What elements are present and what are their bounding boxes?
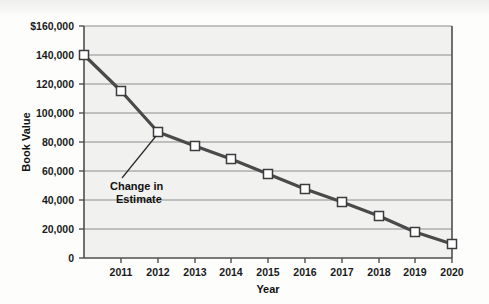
x-tick-label-2019: 2019 xyxy=(403,266,427,278)
x-tick-label-2015: 2015 xyxy=(256,266,280,278)
annotation-change-in-estimate-line2: Estimate xyxy=(116,193,162,205)
y-tick-label-120000: 120,000 xyxy=(36,78,74,90)
x-tick-label-2018: 2018 xyxy=(367,266,391,278)
data-point-2015 xyxy=(264,170,273,179)
data-point-2017 xyxy=(338,198,347,207)
data-point-2012 xyxy=(154,128,163,137)
x-tick-label-2014: 2014 xyxy=(219,266,243,278)
chart-figure: Change in Estimate $160,000 140,000 120,… xyxy=(0,0,489,304)
annotation-change-in-estimate-line1: Change in xyxy=(110,180,163,192)
x-tick-label-2017: 2017 xyxy=(330,266,354,278)
data-point-2010 xyxy=(80,51,89,60)
y-tick-label-40000: 40,000 xyxy=(42,194,74,206)
y-tick-label-100000: 100,000 xyxy=(36,107,74,119)
x-axis-title: Year xyxy=(256,283,280,295)
y-tick-label-20000: 20,000 xyxy=(42,223,74,235)
y-tick-label-140000: 140,000 xyxy=(36,49,74,61)
x-tick-label-2013: 2013 xyxy=(183,266,207,278)
data-point-2016 xyxy=(301,185,310,194)
x-tick-label-2011: 2011 xyxy=(110,266,133,278)
x-tick-label-2012: 2012 xyxy=(146,266,170,278)
data-point-2014 xyxy=(227,155,236,164)
book-value-line-chart: Change in Estimate $160,000 140,000 120,… xyxy=(0,0,489,304)
data-point-2011 xyxy=(117,87,126,96)
data-point-2019 xyxy=(411,228,420,237)
y-tick-label-80000: 80,000 xyxy=(42,136,74,148)
y-tick-label-60000: 60,000 xyxy=(42,165,74,177)
data-point-2013 xyxy=(191,142,200,151)
data-point-2020 xyxy=(448,240,457,249)
data-point-2018 xyxy=(375,212,384,221)
y-tick-label-160000: $160,000 xyxy=(30,20,74,32)
y-axis-title: Book Value xyxy=(20,112,32,171)
y-tick-label-0: 0 xyxy=(68,252,74,264)
x-tick-label-2020: 2020 xyxy=(440,266,464,278)
x-tick-label-2016: 2016 xyxy=(293,266,317,278)
